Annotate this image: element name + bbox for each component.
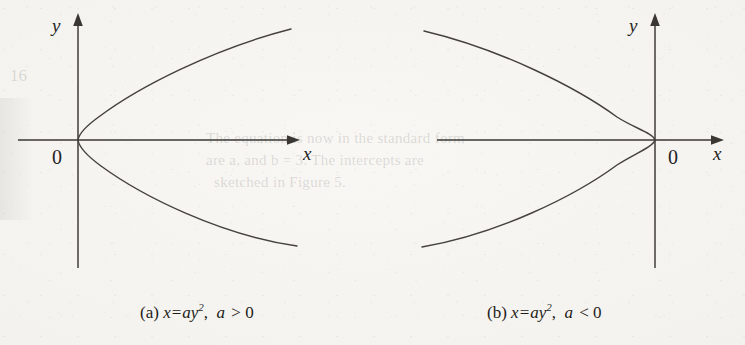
panel-b-origin-label: 0 [668,146,678,169]
panel-a-parabola-curve [78,29,297,246]
panel-a-x-axis-label: x [303,143,311,165]
panel-b-graph [422,13,724,268]
panel-a-x-axis-arrowhead [287,135,300,145]
panel-b-x-axis-label: x [713,143,721,165]
panel-b-parabola-curve [422,31,655,247]
panel-a-eq-coef: a [182,303,191,322]
panel-a-caption-label: (a) [140,303,159,322]
panel-a-origin-label: 0 [52,146,62,169]
panel-b-eq-lhs: x [511,303,519,322]
panel-b-cond-var: a [565,303,574,322]
panel-a-graph [18,13,300,268]
panel-b-eq-equals: = [519,303,531,322]
panel-b-caption: (b) x=ay2, a < 0 [487,301,602,323]
panel-b-eq-coef: a [530,303,539,322]
panel-b-y-axis-label: y [629,15,637,37]
panel-a-eq-lhs: x [163,303,171,322]
panel-a-caption: (a) x=ay2, a > 0 [140,301,254,323]
panel-a-y-axis-arrowhead [73,13,83,26]
parabola-figure [0,0,745,345]
panel-a-cond-op: > [231,303,241,322]
panel-b-cond-op: < [579,303,589,322]
panel-a-cond-var: a [217,303,226,322]
panel-a-y-axis-label: y [52,15,60,37]
panel-a-eq-equals: = [171,303,183,322]
panel-a-cond-val: 0 [245,303,254,322]
panel-b-cond-val: 0 [593,303,602,322]
panel-b-caption-label: (b) [487,303,507,322]
panel-b-y-axis-arrowhead [650,13,660,26]
